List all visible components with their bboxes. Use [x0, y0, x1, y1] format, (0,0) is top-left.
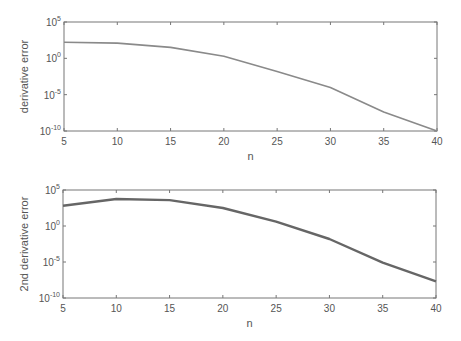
x-tick-label: 40 [431, 136, 443, 147]
x-tick-label: 35 [378, 136, 390, 147]
y-tick-label: 10-5 [44, 88, 61, 101]
x-tick-label: 15 [164, 303, 176, 314]
x-tick-label: 10 [111, 303, 123, 314]
second-derivative-error-plot: 51015202530354010-1010-5100105n2nd deriv… [18, 183, 442, 329]
x-tick-label: 5 [60, 303, 66, 314]
axes-box [64, 22, 437, 131]
y-tick-label: 10-10 [39, 291, 60, 304]
y-tick-label: 100 [45, 219, 60, 232]
y-tick-label: 100 [46, 51, 61, 64]
x-tick-label: 35 [377, 303, 389, 314]
data-line [64, 42, 437, 131]
x-tick-label: 10 [112, 136, 124, 147]
y-tick-label: 105 [45, 183, 60, 196]
axes-box [63, 190, 436, 298]
x-axis-label: n [246, 317, 252, 329]
y-tick-label: 10-5 [43, 255, 60, 268]
x-tick-label: 30 [324, 303, 336, 314]
y-axis-label: 2nd derivative error [18, 196, 30, 291]
y-tick-label: 10-10 [40, 124, 61, 137]
x-tick-label: 15 [165, 136, 177, 147]
x-tick-label: 40 [430, 303, 442, 314]
x-tick-label: 5 [61, 136, 67, 147]
chart-canvas: 51015202530354010-1010-5100105nderivativ… [0, 0, 461, 341]
x-tick-label: 20 [217, 303, 229, 314]
x-tick-label: 30 [325, 136, 337, 147]
data-line [63, 199, 436, 281]
derivative-error-plot: 51015202530354010-1010-5100105nderivativ… [18, 15, 443, 162]
y-axis-label: derivative error [18, 39, 30, 113]
x-tick-label: 20 [218, 136, 230, 147]
x-axis-label: n [247, 150, 253, 162]
x-tick-label: 25 [272, 136, 284, 147]
x-tick-label: 25 [271, 303, 283, 314]
y-tick-label: 105 [46, 15, 61, 28]
